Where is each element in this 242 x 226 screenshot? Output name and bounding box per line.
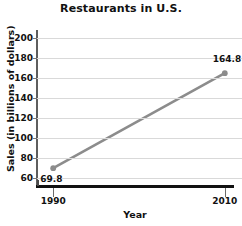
gridline: [36, 98, 242, 99]
y-axis-tick: [33, 38, 37, 39]
y-axis-tick: [33, 158, 37, 159]
data-point-marker[interactable]: [50, 165, 56, 171]
gridline: [36, 118, 242, 119]
x-axis-endcap: [37, 180, 39, 186]
y-axis-tick: [33, 98, 37, 99]
y-axis-tick: [33, 78, 37, 79]
x-axis-tick-label: 1990: [33, 196, 73, 206]
data-point-label: 69.8: [40, 174, 62, 184]
x-axis-tick-label: 2010: [205, 196, 242, 206]
line-chart: Restaurants in U.S. Sales (in billions o…: [0, 0, 242, 226]
series-line: [53, 73, 225, 168]
gridline: [36, 78, 242, 79]
x-axis-line: [36, 185, 234, 188]
y-axis-tick: [33, 118, 37, 119]
gridline: [36, 38, 242, 39]
chart-title: Restaurants in U.S.: [0, 2, 242, 15]
x-axis-label: Year: [36, 209, 234, 220]
gridline: [36, 158, 242, 159]
y-axis-tick-label: 80: [7, 154, 33, 163]
gridline: [36, 58, 242, 59]
y-axis-tick: [33, 58, 37, 59]
y-axis-tick-label: 140: [7, 94, 33, 103]
y-axis-tick-label: 100: [7, 134, 33, 143]
y-axis-tick-label: 160: [7, 74, 33, 83]
data-point-label: 164.8: [213, 54, 241, 64]
y-axis-tick-label: 180: [7, 54, 33, 63]
y-axis-tick: [33, 178, 37, 179]
y-axis-tick-label: 60: [7, 174, 33, 183]
gridline: [36, 178, 242, 179]
series-line-svg: [36, 30, 242, 186]
y-axis-tick-label: 120: [7, 114, 33, 123]
y-axis-tick-label: 200: [7, 34, 33, 43]
y-axis-tick: [33, 138, 37, 139]
data-point-marker[interactable]: [222, 70, 228, 76]
gridline: [36, 138, 242, 139]
plot-area: [36, 30, 242, 185]
